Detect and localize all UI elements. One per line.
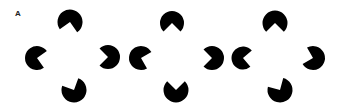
illusory-square-figure-2 [129,11,224,102]
kanizsa-figures [0,0,342,106]
pacman-inducer-bottom-icon [61,78,86,102]
pacman-inducer-left-icon [231,46,251,69]
pacman-inducer-left-icon [25,46,47,70]
pacman-inducer-left-icon [129,46,151,70]
pacman-inducer-right-icon [303,46,325,70]
pacman-inducer-bottom-icon [164,81,189,102]
pacman-inducer-top-icon [263,11,288,32]
pacman-inducer-top-icon [160,11,184,31]
pacman-inducer-bottom-icon [268,78,293,103]
pacman-inducer-top-icon [57,10,82,33]
illusory-square-figure-3 [231,11,325,103]
pacman-inducer-right-icon [100,45,120,69]
pacman-inducer-right-icon [204,46,224,70]
illusory-square-figure-1 [25,10,120,103]
